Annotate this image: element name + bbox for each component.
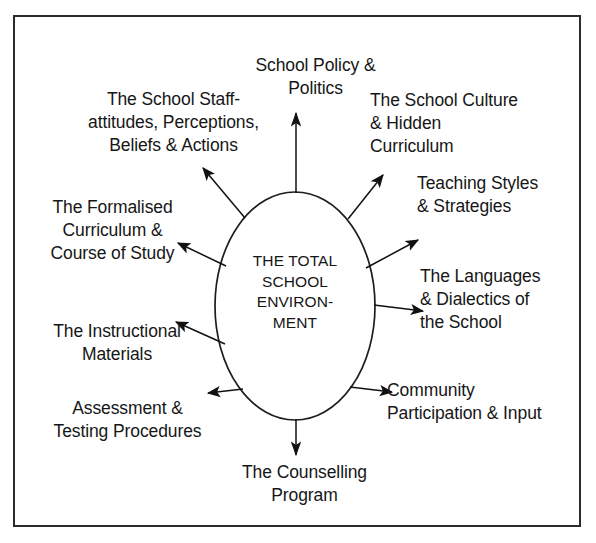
- node-label-languages-dialectics: The Languages & Dialectics of the School: [420, 265, 585, 333]
- node-label-counselling-program: The Counselling Program: [212, 461, 397, 507]
- diagram-page: THE TOTAL SCHOOL ENVIRON- MENT School Po…: [0, 0, 596, 543]
- center-ellipse-label: THE TOTAL SCHOOL ENVIRON- MENT: [227, 251, 363, 333]
- node-label-school-staff: The School Staff- attitudes, Perceptions…: [56, 88, 291, 156]
- arrow-community: [350, 387, 392, 392]
- arrow-teaching: [366, 240, 418, 268]
- arrow-staff: [203, 168, 245, 218]
- node-label-formalised-curriculum: The Formalised Curriculum & Course of St…: [20, 196, 205, 264]
- arrow-assessment: [208, 389, 243, 393]
- node-label-assessment-testing: Assessment & Testing Procedures: [20, 397, 235, 443]
- node-label-teaching-styles-strategies: Teaching Styles & Strategies: [417, 172, 587, 218]
- node-label-school-culture-hidden-curriculum: The School Culture & Hidden Curriculum: [370, 89, 580, 157]
- arrow-culture: [348, 175, 383, 219]
- node-label-community-participation: Community Participation & Input: [387, 379, 587, 425]
- node-label-instructional-materials: The Instructional Materials: [22, 320, 212, 366]
- arrow-languages: [374, 305, 423, 311]
